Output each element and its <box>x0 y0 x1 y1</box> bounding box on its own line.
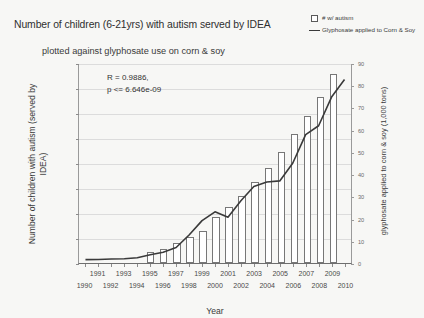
chart-legend: # w/ autism Glyphosate applied to Corn &… <box>308 14 420 38</box>
x-tick <box>163 264 164 267</box>
x-tick <box>137 264 138 267</box>
chart-title: Number of children (6-21yrs) with autism… <box>14 18 304 31</box>
annotation-p: p <= 6.646e-09 <box>107 85 161 94</box>
y-tick-label-right: 40 <box>358 172 380 178</box>
y-tick-label-right: 10 <box>358 239 380 245</box>
y-tick-right <box>351 242 354 243</box>
x-tick <box>189 264 190 267</box>
x-tick <box>111 264 112 267</box>
y-tick-right <box>351 86 354 87</box>
y-tick-label-right: 70 <box>358 105 380 111</box>
x-tick <box>319 264 320 267</box>
y-tick-label-right: 90 <box>358 61 380 67</box>
x-tick <box>85 264 86 267</box>
y-tick-label-right: 60 <box>358 128 380 134</box>
y-axis-left-title: Number of children with autism (served b… <box>27 74 49 254</box>
line-swatch-icon <box>308 26 320 35</box>
x-tick <box>345 264 346 267</box>
correlation-annotation: R = 0.9886, p <= 6.646e-09 <box>107 72 161 95</box>
plot-area: 0500001000001500002000002500003000003500… <box>78 64 352 264</box>
x-tick <box>228 264 229 267</box>
x-tick <box>150 264 151 267</box>
x-tick <box>241 264 242 267</box>
x-tick <box>215 264 216 267</box>
legend-label-glyphosate: Glyphosate applied to Corn & Soy <box>322 26 415 35</box>
x-axis: Year 19901991199219931994199519961997199… <box>78 264 352 318</box>
x-tick <box>202 264 203 267</box>
y-axis-right-title: glyphosate applied to corn & soy (1,000 … <box>379 66 388 256</box>
x-tick <box>332 264 333 267</box>
x-tick <box>293 264 294 267</box>
x-tick <box>176 264 177 267</box>
chart-figure: Number of children (6-21yrs) with autism… <box>0 0 424 318</box>
x-tick <box>306 264 307 267</box>
x-tick <box>254 264 255 267</box>
y-tick-right <box>351 108 354 109</box>
y-tick-label-right: 20 <box>358 217 380 223</box>
glyphosate-line <box>85 79 344 259</box>
annotation-r: R = 0.9886, <box>107 73 149 82</box>
y-tick-label-right: 50 <box>358 150 380 156</box>
x-tick <box>124 264 125 267</box>
x-axis-title: Year <box>78 306 352 316</box>
y-tick-right <box>351 175 354 176</box>
legend-item-glyphosate: Glyphosate applied to Corn & Soy <box>308 26 420 35</box>
x-tick-label: 2010 <box>330 282 360 289</box>
x-tick <box>98 264 99 267</box>
y-tick-right <box>351 197 354 198</box>
legend-item-autism: # w/ autism <box>308 14 420 23</box>
y-tick-label-right: 0 <box>358 261 380 267</box>
y-tick-label-right: 30 <box>358 194 380 200</box>
open-square-icon <box>308 14 320 23</box>
x-tick-label: 2009 <box>317 270 347 277</box>
y-tick-right <box>351 64 354 65</box>
y-tick-right <box>351 220 354 221</box>
chart-subtitle: plotted against glyphosate use on corn &… <box>42 46 312 58</box>
y-tick-right <box>351 131 354 132</box>
legend-label-autism: # w/ autism <box>322 14 353 23</box>
y-tick-right <box>351 153 354 154</box>
y-tick-label-right: 80 <box>358 83 380 89</box>
x-tick <box>267 264 268 267</box>
x-tick <box>280 264 281 267</box>
